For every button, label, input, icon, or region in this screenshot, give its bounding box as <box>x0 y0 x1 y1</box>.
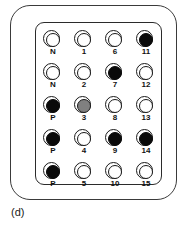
well-6-r1c3[interactable]: 6 <box>103 30 135 63</box>
well-label: 6 <box>103 47 127 57</box>
well-label: N <box>41 80 65 90</box>
well-label: N <box>41 47 65 57</box>
well-5-r5c2[interactable]: 5 <box>72 162 104 195</box>
well-11-r1c4[interactable]: 11 <box>134 30 166 63</box>
well-label: 5 <box>72 179 96 189</box>
well-label: 12 <box>134 80 158 90</box>
well-3-r3c2[interactable]: 3 <box>72 96 104 129</box>
well-label: 10 <box>103 179 127 189</box>
well-bore-icon <box>108 66 122 80</box>
well-7-r2c3[interactable]: 7 <box>103 63 135 96</box>
well-bore-icon <box>77 66 91 80</box>
well-4-r4c2[interactable]: 4 <box>72 129 104 162</box>
well-label: 4 <box>72 146 96 156</box>
well-label: 1 <box>72 47 96 57</box>
well-label: 3 <box>72 113 96 123</box>
well-2-r2c2[interactable]: 2 <box>72 63 104 96</box>
well-label: 2 <box>72 80 96 90</box>
well-1-r1c2[interactable]: 1 <box>72 30 104 63</box>
well-13-r3c4[interactable]: 13 <box>134 96 166 129</box>
well-bore-icon <box>108 33 122 47</box>
well-bore-icon <box>108 165 122 179</box>
well-label: 14 <box>134 146 158 156</box>
well-bore-icon <box>77 165 91 179</box>
well-P-r5c1[interactable]: P <box>41 162 73 195</box>
well-label: 11 <box>134 47 158 57</box>
well-14-r4c4[interactable]: 14 <box>134 129 166 162</box>
well-label: P <box>41 113 65 123</box>
well-bore-icon <box>139 99 153 113</box>
well-label: 13 <box>134 113 158 123</box>
well-bore-icon <box>77 33 91 47</box>
well-bore-icon <box>139 66 153 80</box>
well-N-r2c1[interactable]: N <box>41 63 73 96</box>
well-plate-figure: N1611N2712P3813P4914P51015 (d) <box>0 0 190 231</box>
well-P-r3c1[interactable]: P <box>41 96 73 129</box>
well-bore-icon <box>77 99 91 113</box>
panel-caption: (d) <box>11 206 24 218</box>
well-12-r2c4[interactable]: 12 <box>134 63 166 96</box>
well-label: 8 <box>103 113 127 123</box>
well-label: P <box>41 146 65 156</box>
well-bore-icon <box>77 132 91 146</box>
well-label: 7 <box>103 80 127 90</box>
well-bore-icon <box>46 33 60 47</box>
well-9-r4c3[interactable]: 9 <box>103 129 135 162</box>
well-bore-icon <box>46 132 60 146</box>
well-10-r5c3[interactable]: 10 <box>103 162 135 195</box>
well-label: 15 <box>134 179 158 189</box>
well-bore-icon <box>108 132 122 146</box>
well-8-r3c3[interactable]: 8 <box>103 96 135 129</box>
well-label: P <box>41 179 65 189</box>
well-bore-icon <box>108 99 122 113</box>
well-bore-icon <box>139 165 153 179</box>
well-grid: N1611N2712P3813P4914P51015 <box>35 22 162 185</box>
well-bore-icon <box>46 66 60 80</box>
well-bore-icon <box>46 165 60 179</box>
well-P-r4c1[interactable]: P <box>41 129 73 162</box>
well-bore-icon <box>46 99 60 113</box>
well-bore-icon <box>139 33 153 47</box>
well-15-r5c4[interactable]: 15 <box>134 162 166 195</box>
well-bore-icon <box>139 132 153 146</box>
well-N-r1c1[interactable]: N <box>41 30 73 63</box>
well-label: 9 <box>103 146 127 156</box>
